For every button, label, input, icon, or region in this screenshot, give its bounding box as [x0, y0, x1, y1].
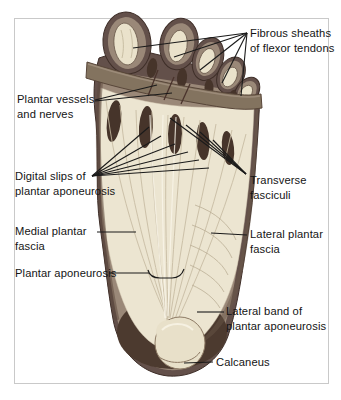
label-plantar-aponeurosis: Plantar aponeurosis: [15, 266, 116, 281]
calcaneus-shape: [155, 317, 205, 369]
label-lateral-band: Lateral band of plantar aponeurosis: [226, 304, 326, 334]
label-medial-plantar-fascia: Medial plantar fascia: [15, 224, 87, 254]
figure: Fibrous sheaths of flexor tendons Planta…: [0, 0, 341, 400]
label-fibrous-sheaths: Fibrous sheaths of flexor tendons: [250, 26, 334, 56]
label-digital-slips: Digital slips of plantar aponeurosis: [15, 169, 115, 199]
label-plantar-vessels: Plantar vessels and nerves: [17, 92, 94, 122]
label-lateral-plantar-fascia: Lateral plantar fascia: [250, 227, 323, 257]
label-transverse-fasciculi: Transverse fasciculi: [250, 173, 307, 203]
label-calcaneus: Calcaneus: [216, 355, 270, 370]
